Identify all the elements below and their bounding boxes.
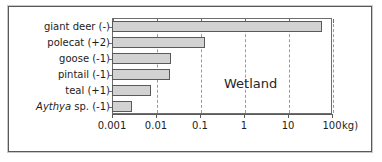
category-axis-labels: giant deer (-)polecat (+2)goose (-1)pint… xyxy=(18,18,110,114)
bar-row xyxy=(112,82,332,98)
bar xyxy=(112,101,132,112)
top-tick-100 xyxy=(333,19,334,23)
category-label: polecat (+2) xyxy=(18,37,110,48)
x-axis-line xyxy=(112,114,332,115)
bar xyxy=(112,85,151,96)
x-tick-0.01 xyxy=(156,114,157,118)
genus-name: Aythya xyxy=(36,101,71,112)
x-tick-0.1 xyxy=(200,114,201,118)
x-tick-label: 0.001 xyxy=(98,120,127,131)
bar-row xyxy=(112,50,332,66)
x-tick-0.001 xyxy=(112,114,113,118)
bar-series xyxy=(112,18,332,114)
category-label: giant deer (-) xyxy=(18,21,110,32)
category-label: Aythya sp. (-1) xyxy=(18,101,110,112)
bar xyxy=(112,69,170,80)
bar-chart: giant deer (-)polecat (+2)goose (-1)pint… xyxy=(0,0,382,162)
bar xyxy=(112,37,205,48)
plot-annotation-wetland: Wetland xyxy=(224,76,277,91)
gridline-100 xyxy=(333,19,334,113)
x-tick-label: 10 xyxy=(282,120,295,131)
bar xyxy=(112,53,171,64)
x-axis-unit-label: kg) xyxy=(342,120,358,131)
bar-row xyxy=(112,18,332,34)
x-tick-100 xyxy=(332,114,333,118)
x-tick-label: 100 xyxy=(322,120,341,131)
category-label: pintail (-1) xyxy=(18,69,110,80)
bar-row xyxy=(112,98,332,114)
x-tick-label: 1 xyxy=(241,120,247,131)
x-tick-1 xyxy=(244,114,245,118)
x-tick-10 xyxy=(288,114,289,118)
x-tick-label: 0.1 xyxy=(192,120,208,131)
x-tick-label: 0.01 xyxy=(145,120,167,131)
bar xyxy=(112,21,322,32)
category-label: teal (+1) xyxy=(18,85,110,96)
bar-row xyxy=(112,34,332,50)
category-label: goose (-1) xyxy=(18,53,110,64)
bar-row xyxy=(112,66,332,82)
